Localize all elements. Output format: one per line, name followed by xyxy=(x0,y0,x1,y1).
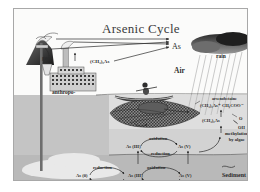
sediment-squiggle xyxy=(222,166,235,167)
boat-icon xyxy=(114,82,174,102)
sediment-boundary-line xyxy=(109,154,247,155)
label-arsenobetaine: arsenobetaine xyxy=(212,97,237,101)
label-geo: geo- xyxy=(42,56,52,62)
label-arsenobetaine-formula: (CH₃)₃As⁺ CH₂COO⁻ xyxy=(200,104,244,109)
label-as: As xyxy=(172,43,181,51)
label-hydroxyl: OH xyxy=(238,126,245,130)
label-water-reduction: reduction xyxy=(151,152,170,157)
label-sed-as-v: As (V) xyxy=(179,174,192,179)
diagram-plate: Arsenic Cycle As Air rain geo- anthropo-… xyxy=(13,8,248,181)
label-sed-as-iii: As (III) xyxy=(128,174,143,179)
label-sediment: Sediment xyxy=(222,172,246,178)
rain-cloud-icon xyxy=(191,32,248,54)
algae-icon xyxy=(110,100,200,127)
label-anthropo: anthropo- xyxy=(52,90,75,96)
diagram-canvas: Arsenic Cycle As Air rain geo- anthropo-… xyxy=(0,0,260,192)
label-water-oxidation: oxidation xyxy=(149,137,167,142)
label-rain: rain xyxy=(216,54,226,60)
label-sed-left-reduction: reduction xyxy=(93,166,112,171)
water-surface-line xyxy=(96,94,247,95)
label-sed-as-0: As (0) xyxy=(76,174,88,179)
methylation-chain-arrows xyxy=(195,101,238,152)
label-water-as-iii: As (III) xyxy=(126,145,141,150)
label-dimethylarsinic: (CH₃)₂As xyxy=(202,119,220,124)
methylation-line-2: by algae xyxy=(229,137,245,142)
label-air: Air xyxy=(174,67,185,75)
label-water-as-v: As (V) xyxy=(178,145,191,150)
methylation-line-1: methylation xyxy=(225,131,248,136)
label-sed-right-oxidation: oxidation xyxy=(147,166,165,171)
page-title: Arsenic Cycle xyxy=(102,22,180,35)
label-trimethylarsine: (CH₃)₃As xyxy=(90,59,109,64)
label-methylation-by-algae: methylation by algae xyxy=(225,131,248,142)
label-oxygen: O xyxy=(239,117,242,121)
